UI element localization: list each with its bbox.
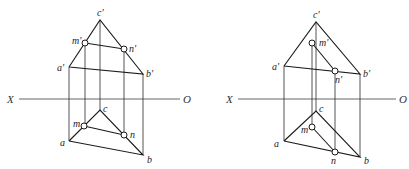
left-label-n: n: [130, 129, 135, 140]
left-front-mn-line: [85, 43, 124, 49]
right-label-n: n: [331, 155, 336, 166]
left-point-n: [121, 132, 127, 138]
right-label-a: a: [274, 138, 279, 149]
right-axis-x-label: X: [225, 93, 234, 105]
left-label-b-prime: b': [146, 68, 154, 79]
right-label-a-prime: a': [272, 61, 280, 72]
left-axis-o-label: O: [183, 93, 191, 105]
right-point-m: [309, 124, 315, 130]
right-label-m-prime: m': [319, 37, 329, 48]
left-figure: X O c' m' n' a' b' c m n a b: [6, 7, 191, 165]
left-point-m-prime: [82, 40, 88, 46]
right-front-triangle: [284, 22, 360, 74]
right-label-b-prime: b': [363, 68, 371, 79]
left-label-m-prime: m': [72, 35, 82, 46]
right-axis-o-label: O: [399, 93, 407, 105]
projection-diagrams: X O c' m' n' a' b' c m n a b X O: [0, 0, 409, 169]
left-label-n-prime: n': [129, 43, 137, 54]
left-label-a: a: [60, 137, 65, 148]
right-top-mn-line: [312, 127, 335, 152]
right-top-triangle: [284, 111, 360, 157]
left-top-mn-line: [84, 126, 124, 135]
left-label-c-prime: c': [97, 7, 104, 18]
right-point-m-prime: [309, 40, 315, 46]
left-axis-x-label: X: [6, 93, 15, 105]
right-label-n-prime: n': [335, 74, 343, 85]
left-label-c: c: [103, 103, 108, 114]
right-label-b: b: [364, 155, 369, 166]
left-point-m: [81, 123, 87, 129]
right-label-c-prime: c': [313, 9, 320, 20]
left-point-n-prime: [121, 46, 127, 52]
left-label-a-prime: a': [57, 62, 65, 73]
right-label-c: c: [319, 103, 324, 114]
left-label-b: b: [147, 154, 152, 165]
right-label-m: m: [301, 124, 308, 135]
right-figure: X O c' m' n' a' b' c m n a b: [225, 9, 407, 166]
left-label-m: m: [73, 118, 80, 129]
